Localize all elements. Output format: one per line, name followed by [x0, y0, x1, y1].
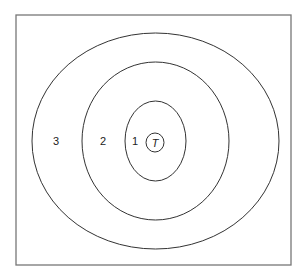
ring-3-label: 3	[53, 135, 59, 147]
target-label: T	[152, 137, 160, 149]
concentric-regions-diagram: 3 2 1 T	[0, 0, 306, 274]
ring-2-label: 2	[100, 135, 106, 147]
ring-1-label: 1	[132, 135, 138, 147]
